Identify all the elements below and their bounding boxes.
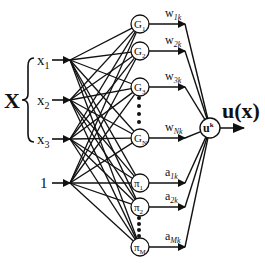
input-label: x2 <box>37 92 50 111</box>
weight-label: w1k <box>165 6 182 22</box>
hidden-node-pi2: π2a2k <box>131 189 185 216</box>
neural-network-diagram: x1x2x31 G1w1kG2w2kG3w3kGNwNkπ1a1kπ2a2kπM… <box>0 0 265 268</box>
weight-label: a2k <box>165 189 178 205</box>
input-to-hidden-edges <box>70 28 137 241</box>
weight-label: w3k <box>165 69 182 85</box>
ellipsis-dot <box>137 104 141 108</box>
input-layer: x1x2x31 <box>37 52 70 191</box>
hidden-node-G1: G1w1k <box>131 6 185 33</box>
output-node: uku(x) <box>200 98 260 138</box>
hidden-node-G3: G3w3k <box>131 69 185 96</box>
ellipsis-dot <box>137 112 141 116</box>
input-node-x3: x3 <box>37 131 70 150</box>
weight-label: aMk <box>165 229 181 245</box>
ellipsis-dot <box>137 234 141 238</box>
hidden-node-piM: πMaMk <box>131 229 185 256</box>
input-label: x3 <box>37 131 50 150</box>
ellipsis-dot <box>137 96 141 100</box>
ellipsis-dot <box>137 228 141 232</box>
input-node-x1: x1 <box>37 52 70 71</box>
input-vector-label: X <box>4 88 20 113</box>
ellipsis-dot <box>137 216 141 220</box>
input-node-x2: x2 <box>37 92 70 111</box>
ellipsis-dots <box>137 96 141 238</box>
weight-label: wNk <box>165 120 183 136</box>
output-label: u(x) <box>222 98 260 123</box>
hidden-node-GN: GNwNk <box>131 120 185 147</box>
weight-label: w2k <box>165 33 182 49</box>
weight-label: a1k <box>165 165 178 181</box>
ellipsis-dot <box>137 120 141 124</box>
hidden-node-G2: G2w2k <box>131 33 185 60</box>
input-group-brace: X <box>4 58 34 142</box>
input-label: x1 <box>37 52 50 71</box>
hidden-node-pi1: π1a1k <box>131 165 185 192</box>
brace-icon <box>22 58 34 142</box>
input-node-bias: 1 <box>40 175 70 191</box>
ellipsis-dot <box>137 222 141 226</box>
input-label: 1 <box>40 175 48 191</box>
output-layer: uku(x) <box>200 98 260 138</box>
